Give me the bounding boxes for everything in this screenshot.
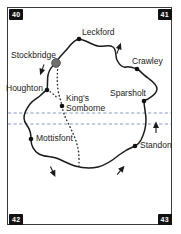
place-label-leckford: Leckford xyxy=(82,28,115,38)
place-label-stockbridge: Stockbridge xyxy=(11,51,56,61)
marker-crawley[interactable] xyxy=(135,67,140,72)
dotted-interior-route xyxy=(57,66,79,166)
direction-arrow-sparsholt-east xyxy=(153,122,159,134)
map-container: Leckford Stockbridge Crawley Houghton Sp… xyxy=(0,0,181,234)
marker-houghton[interactable] xyxy=(45,88,50,93)
place-label-crawley: Crawley xyxy=(132,57,163,67)
marker-leckford[interactable] xyxy=(77,37,82,42)
marker-kings-somborne[interactable] xyxy=(60,104,65,109)
grid-label-bottom-right: 43 xyxy=(158,214,172,225)
marker-sparsholt[interactable] xyxy=(142,99,147,104)
grid-label-bottom-left: 42 xyxy=(9,214,23,225)
place-label-mottisfont: Mottisfont xyxy=(36,134,73,144)
marker-mottisfont[interactable] xyxy=(29,137,34,142)
place-label-kings-somborne: King's Somborne xyxy=(66,94,118,113)
grid-label-top-right: 41 xyxy=(158,9,172,20)
place-label-standon: Standon xyxy=(140,141,172,151)
direction-arrow-stockbridge-west xyxy=(37,63,47,76)
marker-standon[interactable] xyxy=(133,144,138,149)
place-label-houghton: Houghton xyxy=(6,84,43,94)
direction-arrow-south-east xyxy=(115,164,127,177)
direction-arrow-south-west xyxy=(48,165,58,178)
grid-label-top-left: 40 xyxy=(9,9,23,20)
